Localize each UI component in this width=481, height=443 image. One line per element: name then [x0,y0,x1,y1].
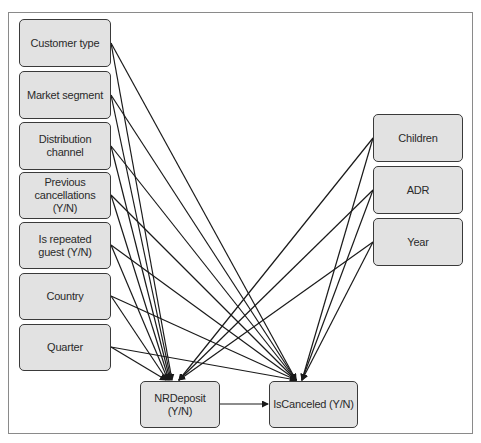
node-label: Previous cancellations (Y/N) [22,176,108,215]
edge-children-iscanceled [302,138,373,380]
node-previous-cancellations: Previous cancellations (Y/N) [19,172,111,219]
node-label: Market segment [27,89,103,102]
node-country: Country [19,273,111,320]
node-iscanceled: IsCanceled (Y/N) [269,381,358,428]
node-label: Children [398,132,437,145]
node-label: Quarter [47,341,83,354]
edge-year-iscanceled [302,242,373,380]
node-adr: ADR [373,166,463,214]
node-label: IsCanceled (Y/N) [273,398,354,411]
node-nrdeposit: NRDeposit (Y/N) [140,381,220,428]
edge-distribution-channel-nrdeposit [111,146,170,380]
node-label: Distribution channel [22,133,108,159]
node-label: Is repeated guest (Y/N) [35,233,95,259]
node-label: Country [46,290,83,303]
node-distribution-channel: Distribution channel [19,122,111,170]
node-year: Year [373,218,463,266]
node-children: Children [373,114,463,162]
node-label: Year [407,236,428,249]
edge-adr-nrdeposit [179,190,373,380]
node-label: ADR [407,184,430,197]
edge-distribution-channel-iscanceled [111,146,296,380]
node-label: NRDeposit (Y/N) [143,392,217,418]
node-label: Customer type [31,37,100,50]
node-market-segment: Market segment [19,71,111,119]
edge-customer-type-iscanceled [111,43,296,380]
edge-is-repeated-guest-iscanceled [111,245,296,380]
node-customer-type: Customer type [19,19,111,67]
node-is-repeated-guest: Is repeated guest (Y/N) [19,222,111,269]
node-quarter: Quarter [19,324,111,371]
edge-market-segment-nrdeposit [111,95,171,380]
